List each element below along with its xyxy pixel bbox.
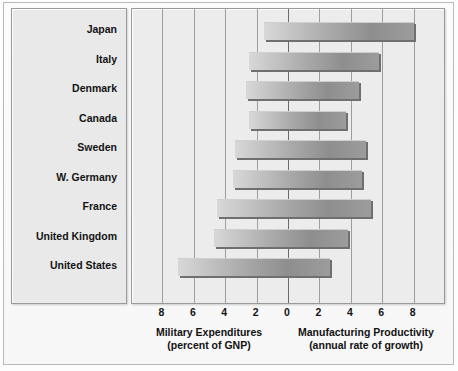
bar-row [132, 252, 444, 282]
right-axis-caption-sub: (annual rate of growth) [287, 339, 445, 352]
bar-sweden [235, 140, 367, 158]
left-axis-caption: Military Expenditures (percent of GNP) [131, 326, 287, 352]
tick-label: 8 [401, 306, 425, 318]
bars-layer [132, 9, 444, 303]
bar-row [132, 164, 444, 194]
bar-denmark [246, 81, 359, 99]
tick-label: 4 [212, 306, 236, 318]
tick-label: 0 [275, 306, 299, 318]
country-label: Italy [96, 45, 117, 75]
bar-row [132, 134, 444, 164]
left-axis-caption-sub: (percent of GNP) [131, 339, 287, 352]
bar-row [132, 223, 444, 253]
left-axis-caption-title: Military Expenditures [131, 326, 287, 339]
bar-canada [249, 111, 346, 129]
country-label: Denmark [72, 74, 117, 104]
bar-row [132, 46, 444, 76]
bar-italy [249, 52, 379, 70]
bar-japan [264, 22, 413, 40]
tick-label: 4 [338, 306, 362, 318]
chart-figure: JapanItalyDenmarkCanadaSwedenW. GermanyF… [0, 0, 458, 371]
bar-united-kingdom [214, 229, 347, 247]
bar-united-states [178, 258, 330, 276]
country-label: W. Germany [56, 163, 117, 193]
tick-label: 8 [149, 306, 173, 318]
plot-area [131, 8, 445, 304]
country-label: United States [50, 251, 117, 281]
bar-row [132, 193, 444, 223]
country-label: Canada [79, 104, 117, 134]
country-label: United Kingdom [36, 222, 117, 252]
tick-label: 6 [181, 306, 205, 318]
bar-france [217, 199, 371, 217]
country-label-panel: JapanItalyDenmarkCanadaSwedenW. GermanyF… [11, 8, 127, 304]
bar-row [132, 105, 444, 135]
bar-row [132, 16, 444, 46]
country-label: France [83, 192, 117, 222]
bar-row [132, 75, 444, 105]
country-label: Sweden [77, 133, 117, 163]
tick-label: 6 [369, 306, 393, 318]
tick-label: 2 [306, 306, 330, 318]
tick-label: 2 [244, 306, 268, 318]
right-axis-caption-title: Manufacturing Productivity [287, 326, 445, 339]
x-axis-tick-labels: 864202468 [131, 306, 445, 322]
right-axis-caption: Manufacturing Productivity (annual rate … [287, 326, 445, 352]
country-label: Japan [87, 15, 117, 45]
bar-w-germany [233, 170, 362, 188]
